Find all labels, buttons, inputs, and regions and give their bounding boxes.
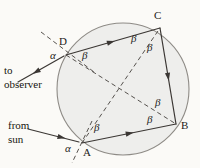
point-label-a: A: [83, 147, 91, 158]
caption-from-sun-line2: sun: [8, 134, 29, 145]
angle-label-alpha-at-d: α: [50, 50, 56, 61]
caption-to-observer-line2: observer: [4, 79, 42, 90]
caption-from-sun-line1: from: [8, 120, 29, 131]
angle-label-beta-at-a: β: [94, 122, 99, 133]
arrowhead-sun-ray: [57, 134, 65, 139]
angle-label-beta-at-b-lower: β: [147, 114, 152, 125]
angle-label-beta-at-b-upper: β: [155, 97, 160, 108]
point-label-b: B: [181, 120, 188, 131]
point-label-d: D: [59, 36, 67, 47]
caption-from-sun: from sun: [8, 120, 29, 145]
angle-label-beta-at-c-left: β: [131, 33, 136, 44]
point-label-c: C: [154, 10, 161, 21]
caption-to-observer: to observer: [4, 65, 42, 90]
figure-canvas: C B D A α β β β β β β α to observer from…: [0, 0, 200, 168]
angle-label-beta-at-c-right: β: [147, 42, 152, 53]
angle-label-alpha-at-a: α: [65, 143, 71, 154]
angle-label-beta-at-d: β: [82, 50, 87, 61]
caption-to-observer-line1: to: [4, 65, 42, 76]
